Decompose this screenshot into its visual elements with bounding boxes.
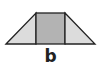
left-triangle xyxy=(6,13,36,44)
center-rectangle xyxy=(36,13,65,44)
right-triangle xyxy=(65,13,95,44)
base-label: b xyxy=(0,47,101,65)
